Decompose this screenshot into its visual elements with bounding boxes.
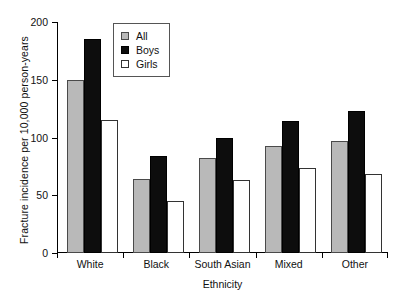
x-category-label-white: White bbox=[57, 258, 123, 270]
y-tick-150: 150 bbox=[52, 80, 57, 81]
bar-white-all bbox=[67, 80, 84, 253]
legend-swatch-all-icon bbox=[121, 32, 129, 40]
y-tick-label-100: 100 bbox=[30, 132, 48, 144]
y-tick-200: 200 bbox=[52, 22, 57, 23]
x-category-label-black: Black bbox=[123, 258, 189, 270]
bar-group-other bbox=[331, 22, 382, 253]
y-tick-label-50: 50 bbox=[36, 189, 48, 201]
bar-mixed-boys bbox=[282, 121, 299, 253]
y-tick-label-200: 200 bbox=[30, 16, 48, 28]
bar-group-white bbox=[67, 22, 118, 253]
bar-white-girls bbox=[101, 120, 118, 253]
y-tick-50: 50 bbox=[52, 195, 57, 196]
legend-item-girls: Girls bbox=[121, 57, 159, 71]
x-category-label-other: Other bbox=[322, 258, 388, 270]
x-category-label-mixed: Mixed bbox=[256, 258, 322, 270]
bar-south-asian-girls bbox=[233, 180, 250, 253]
x-axis-title: Ethnicity bbox=[57, 278, 388, 290]
y-axis-line bbox=[57, 22, 58, 253]
bar-black-all bbox=[133, 179, 150, 253]
y-tick-100: 100 bbox=[52, 138, 57, 139]
bar-other-girls bbox=[365, 174, 382, 253]
bar-group-south-asian bbox=[199, 22, 250, 253]
bar-black-boys bbox=[150, 156, 167, 253]
y-tick-label-150: 150 bbox=[30, 74, 48, 86]
legend-item-all: All bbox=[121, 29, 159, 43]
legend-label-girls: Girls bbox=[136, 59, 158, 70]
legend-label-all: All bbox=[136, 31, 148, 42]
bar-chart: Fracture incidence per 10,000 person-yea… bbox=[0, 0, 398, 302]
legend-item-boys: Boys bbox=[121, 43, 159, 57]
bar-white-boys bbox=[84, 39, 101, 253]
bar-mixed-all bbox=[265, 146, 282, 253]
bar-black-girls bbox=[167, 201, 184, 253]
bar-mixed-girls bbox=[299, 168, 316, 253]
bar-south-asian-boys bbox=[216, 138, 233, 254]
legend-swatch-boys-icon bbox=[121, 46, 129, 54]
y-axis-title: Fracture incidence per 10,000 person-yea… bbox=[18, 20, 30, 260]
bar-other-boys bbox=[348, 111, 365, 253]
bar-other-all bbox=[331, 141, 348, 253]
y-tick-label-0: 0 bbox=[42, 247, 48, 259]
legend-label-boys: Boys bbox=[136, 45, 159, 56]
legend: All Boys Girls bbox=[113, 23, 170, 77]
bar-group-mixed bbox=[265, 22, 316, 253]
x-category-label-south-asian: South Asian bbox=[189, 258, 255, 270]
legend-swatch-girls-icon bbox=[121, 60, 129, 68]
plot-area: 050100150200 WhiteBlackSouth AsianMixedO… bbox=[57, 22, 388, 253]
bar-south-asian-all bbox=[199, 158, 216, 253]
